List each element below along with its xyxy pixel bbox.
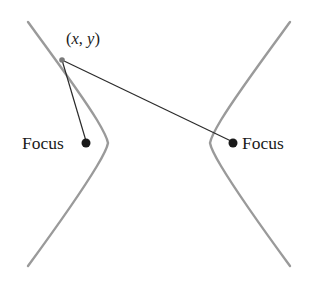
focus-left-label: Focus — [22, 135, 64, 153]
point-coordinates-label: (x, y) — [66, 31, 100, 48]
segment-point-to-left-focus — [62, 60, 86, 141]
point-close-paren: ) — [94, 29, 100, 48]
focus-right-label: Focus — [242, 135, 284, 153]
point-comma: , — [79, 29, 87, 48]
focus-left-dot — [82, 139, 91, 148]
segment-point-to-right-focus — [62, 60, 231, 141]
hyperbola-figure: Focus Focus (x, y) — [0, 0, 317, 285]
point-xy-dot — [59, 57, 65, 63]
focus-right-dot — [229, 139, 238, 148]
point-x-variable: x — [72, 29, 79, 48]
